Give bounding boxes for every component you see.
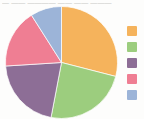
pie-chart-figure: — —— ———— —— —— ———: [0, 0, 144, 119]
legend-item-series-1[interactable]: [127, 25, 141, 36]
legend-swatch-icon-series-3: [127, 58, 137, 68]
legend-swatch-icon-series-1: [127, 26, 137, 36]
legend-item-series-2[interactable]: [127, 41, 141, 52]
legend-swatch-icon-series-4: [127, 74, 137, 84]
pie-chart-plot-area: [5, 6, 118, 119]
legend-item-series-5[interactable]: [127, 89, 141, 100]
legend-item-series-3[interactable]: [127, 57, 141, 68]
legend-swatch-icon-series-5: [127, 90, 137, 100]
pie-chart-svg: [5, 6, 118, 119]
legend-swatch-icon-series-2: [127, 42, 137, 52]
legend-item-series-4[interactable]: [127, 73, 141, 84]
pie-slice-group: [5, 7, 117, 119]
chart-legend: [127, 25, 141, 107]
